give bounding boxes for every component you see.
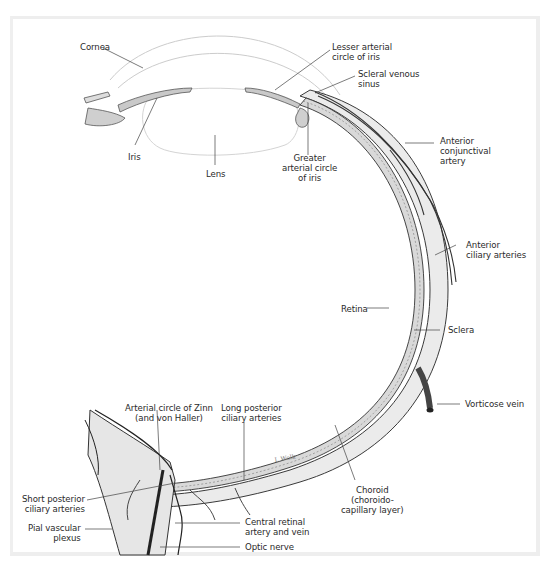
eye-vasculature-illustration: I. Wolk [0, 0, 548, 573]
label-retina: Retina [341, 304, 368, 314]
label-cornea: Cornea [80, 42, 110, 52]
label-iris: Iris [128, 152, 141, 162]
label-pial-vascular-plexus: Pial vascular plexus [28, 523, 81, 543]
label-short-posterior-ciliary: Short posterior ciliary arteries [22, 494, 85, 514]
label-scleral-venous-sinus: Scleral venous sinus [358, 69, 419, 89]
label-greater-arterial-circle: Greater arterial circle of iris [282, 153, 337, 183]
label-anterior-conjunctival-artery: Anterior conjunctival artery [440, 136, 491, 166]
label-lens: Lens [206, 169, 225, 179]
label-long-posterior-ciliary: Long posterior ciliary arteries [221, 403, 282, 423]
label-anterior-ciliary-arteries: Anterior ciliary arteries [466, 240, 526, 260]
label-optic-nerve: Optic nerve [245, 542, 294, 552]
iris-right [245, 88, 309, 127]
label-arterial-circle-zinn: Arterial circle of Zinn (and von Haller) [125, 403, 213, 423]
iris-left [84, 88, 192, 126]
label-choroid: Choroid (choroido- capillary layer) [341, 485, 404, 515]
label-central-retinal: Central retinal artery and vein [245, 517, 309, 537]
label-vorticose-vein: Vorticose vein [465, 399, 524, 409]
label-sclera: Sclera [448, 325, 474, 335]
label-lesser-arterial-circle: Lesser arterial circle of iris [332, 42, 392, 62]
